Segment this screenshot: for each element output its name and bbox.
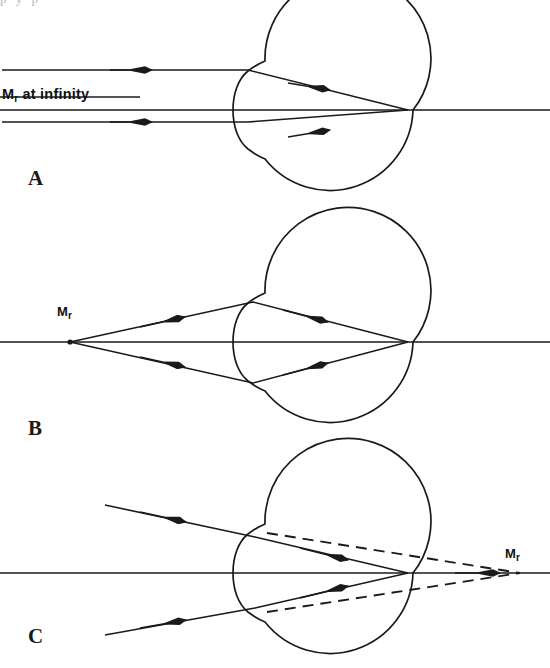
virtual-ray-c-upper xyxy=(267,533,520,573)
far-point-subscript-a: r xyxy=(14,93,18,104)
ray-a-upper-refracted-arrowhead xyxy=(288,83,330,90)
panel-letter-c: C xyxy=(28,624,44,649)
far-point-tail-a: at infinity xyxy=(18,86,89,102)
panel-b-group xyxy=(0,207,550,422)
eye-outline-b xyxy=(233,207,431,422)
eye-outline-c xyxy=(233,438,431,653)
panel-c-group xyxy=(0,438,550,653)
far-point-label-a: Mr at infinity xyxy=(2,86,89,102)
far-point-symbol-c: M xyxy=(505,546,516,561)
ray-c-upper-arrowhead xyxy=(140,512,186,522)
panel-letter-b: B xyxy=(28,416,43,441)
ray-c-upper xyxy=(105,505,408,573)
source-point-b xyxy=(67,339,72,344)
ray-a-lower xyxy=(2,110,408,122)
ray-a-lower-refracted-arrowhead xyxy=(288,130,330,137)
virtual-ray-c-lower xyxy=(267,573,520,612)
far-point-symbol-b: M xyxy=(57,304,68,319)
ray-c-lower-refracted-arrowhead xyxy=(300,586,348,598)
ray-b-upper-refracted-arrowhead xyxy=(283,310,328,322)
ray-c-lower-arrowhead xyxy=(140,620,186,628)
ray-b-upper-arrowhead xyxy=(140,317,185,327)
ray-b-lower-refracted-arrowhead xyxy=(283,363,328,375)
far-point-label-c: Mr xyxy=(505,546,520,561)
far-point-label-b: Mr xyxy=(57,304,72,319)
eye-outline-a xyxy=(233,0,431,190)
ray-b-lower-arrowhead xyxy=(140,357,185,367)
panel-letter-a: A xyxy=(28,166,44,191)
far-point-symbol-a: M xyxy=(2,86,14,102)
ray-b-lower xyxy=(70,342,408,383)
optics-figure: p y p xyxy=(0,0,550,668)
far-point-subscript-c: r xyxy=(516,552,520,563)
ray-b-upper xyxy=(70,302,408,342)
ray-c-upper-refracted-arrowhead xyxy=(300,548,348,560)
far-point-subscript-b: r xyxy=(68,310,72,321)
